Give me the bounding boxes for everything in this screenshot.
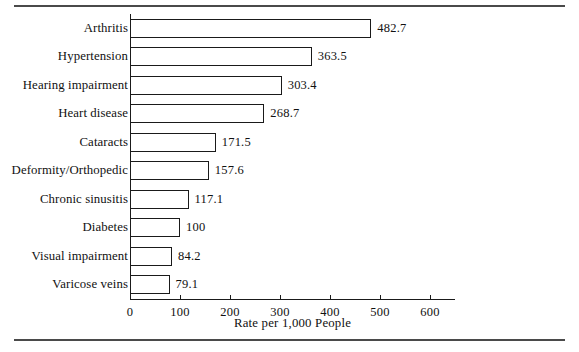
bar [130, 19, 371, 38]
bar [130, 275, 170, 294]
figure-bottom-rule [14, 339, 565, 341]
category-label: Varicose veins [2, 277, 128, 292]
plot-area: 482.7363.5303.4268.7171.5157.6117.110084… [130, 14, 455, 299]
category-label: Chronic sinusitis [2, 192, 128, 207]
bar-value-label: 268.7 [270, 106, 299, 121]
x-axis-spine [130, 299, 455, 300]
x-axis-tick [180, 295, 181, 300]
category-label: Hearing impairment [2, 78, 128, 93]
bar-value-label: 157.6 [215, 163, 244, 178]
category-label: Arthritis [2, 21, 128, 36]
category-label: Deformity/Orthopedic [2, 163, 128, 178]
x-axis-tick [280, 295, 281, 300]
x-axis-tick [430, 295, 431, 300]
bar [130, 47, 312, 66]
category-label: Hypertension [2, 49, 128, 64]
category-label: Diabetes [2, 220, 128, 235]
bar-value-label: 482.7 [377, 21, 406, 36]
category-label: Heart disease [2, 106, 128, 121]
bar [130, 76, 282, 95]
x-axis-title: Rate per 1,000 People [130, 316, 455, 331]
bar [130, 218, 180, 237]
x-axis-tick [380, 295, 381, 300]
category-axis-labels: ArthritisHypertensionHearing impairmentH… [0, 14, 128, 299]
bar-value-label: 171.5 [222, 135, 251, 150]
x-axis-tick [330, 295, 331, 300]
bar [130, 133, 216, 152]
bar-value-label: 84.2 [178, 249, 201, 264]
chart-figure: ArthritisHypertensionHearing impairmentH… [0, 0, 579, 352]
bar-value-label: 117.1 [195, 192, 224, 207]
bar [130, 104, 264, 123]
bar-value-label: 303.4 [288, 78, 317, 93]
figure-top-rule [14, 5, 565, 7]
bar-value-label: 100 [186, 220, 205, 235]
category-label: Visual impairment [2, 249, 128, 264]
category-label: Cataracts [2, 135, 128, 150]
bar-value-label: 79.1 [176, 277, 199, 292]
x-axis-tick [230, 295, 231, 300]
bar [130, 161, 209, 180]
bar-value-label: 363.5 [318, 49, 347, 64]
bar [130, 247, 172, 266]
bar [130, 190, 189, 209]
